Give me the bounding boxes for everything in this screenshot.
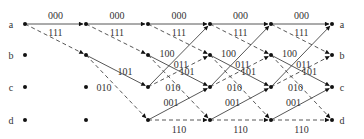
label-c-a: 100: [221, 48, 236, 59]
state-label-left-d: d: [9, 115, 14, 126]
trellis-node-c: [269, 85, 273, 89]
label-d-d: 110: [294, 124, 309, 135]
trellis-node-b: [84, 53, 88, 57]
state-label-right-b: b: [340, 50, 345, 61]
trellis-node-b: [330, 53, 334, 57]
state-label-left-c: c: [9, 82, 14, 93]
label-a-a: 000: [233, 10, 248, 21]
label-c-a: 100: [282, 48, 297, 59]
state-label-right-a: a: [340, 19, 345, 30]
label-a-a: 000: [172, 10, 187, 21]
edge-b-d: [86, 55, 146, 118]
trellis-node-c: [330, 85, 334, 89]
trellis-node-a: [23, 22, 27, 26]
trellis-node-d: [146, 118, 150, 122]
label-a-b: 111: [48, 27, 62, 38]
trellis-node-a: [208, 22, 212, 26]
label-c-b: 011: [235, 59, 250, 70]
trellis-node-d: [23, 118, 27, 122]
trellis-node-d: [208, 118, 212, 122]
trellis-node-b: [208, 53, 212, 57]
label-a-a: 000: [110, 10, 125, 21]
state-label-left-b: b: [9, 50, 14, 61]
label-a-b: 111: [172, 27, 186, 38]
trellis-node-c: [84, 85, 88, 89]
label-a-b: 111: [233, 27, 247, 38]
trellis-node-b: [23, 53, 27, 57]
trellis-node-a: [146, 22, 150, 26]
label-b-d: 010: [288, 82, 303, 93]
trellis-node-b: [269, 53, 273, 57]
label-a-b: 111: [294, 27, 308, 38]
label-d-d: 110: [233, 124, 248, 135]
label-d-d: 110: [172, 124, 187, 135]
label-b-d: 010: [97, 82, 112, 93]
label-a-a: 000: [294, 10, 309, 21]
label-d-c: 001: [225, 97, 240, 108]
trellis-edge-labels: 0001110001111010100001111010101000110011…: [48, 10, 317, 135]
label-a-a: 000: [48, 10, 63, 21]
trellis-node-a: [269, 22, 273, 26]
trellis-node-a: [84, 22, 88, 26]
label-c-b: 011: [296, 59, 311, 70]
label-b-d: 010: [166, 82, 181, 93]
trellis-node-a: [330, 22, 334, 26]
state-label-right-d: d: [340, 115, 345, 126]
label-a-b: 111: [110, 27, 124, 38]
label-b-c: 101: [118, 66, 133, 77]
state-label-left-a: a: [9, 19, 14, 30]
trellis-node-c: [208, 85, 212, 89]
trellis-node-d: [269, 118, 273, 122]
trellis-diagram: 0001110001111010100001111010101000110011…: [0, 0, 364, 139]
trellis-node-d: [330, 118, 334, 122]
label-c-b: 011: [174, 59, 189, 70]
edge-b-c: [86, 55, 145, 86]
trellis-node-d: [84, 118, 88, 122]
trellis-node-c: [146, 85, 150, 89]
label-c-a: 100: [160, 48, 175, 59]
label-b-d: 010: [227, 82, 242, 93]
trellis-node-c: [23, 85, 27, 89]
label-d-c: 001: [164, 97, 179, 108]
state-label-right-c: c: [340, 82, 345, 93]
trellis-node-b: [146, 53, 150, 57]
label-d-c: 001: [286, 97, 301, 108]
